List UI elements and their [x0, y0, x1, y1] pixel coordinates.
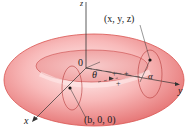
- origin-label: 0: [78, 58, 83, 68]
- y-axis-label: y: [178, 86, 182, 96]
- svg-text:+: +: [116, 79, 121, 88]
- point-label: (x, y, z): [104, 14, 134, 24]
- svg-text:+: +: [112, 69, 117, 78]
- svg-text:+: +: [124, 69, 129, 78]
- theta-label: θ: [92, 70, 97, 80]
- x-axis-label: x: [24, 116, 28, 126]
- torus-diagram: + + +: [0, 0, 186, 128]
- alpha-label: α: [148, 72, 153, 81]
- z-axis-label: z: [80, 0, 83, 8]
- center-point-label: (b, 0, 0): [84, 115, 116, 125]
